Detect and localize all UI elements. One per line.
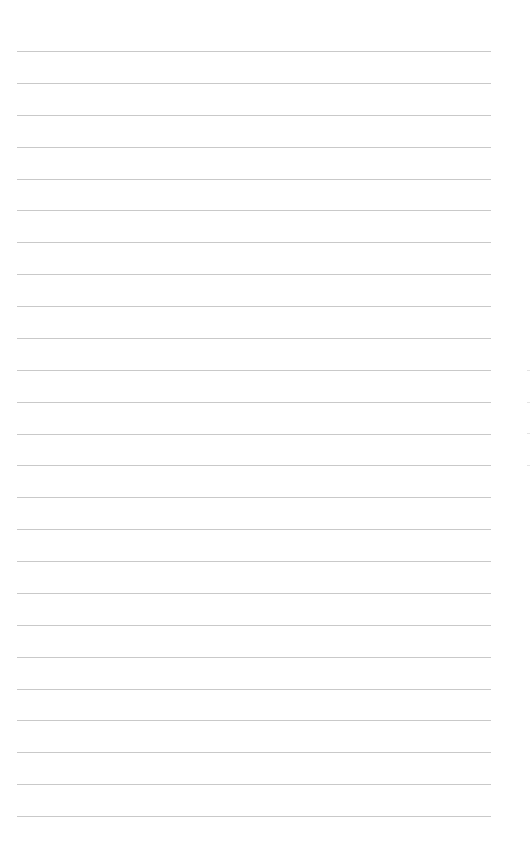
- ruled-line: [17, 179, 491, 180]
- ruled-line: [17, 370, 491, 371]
- ruled-line: [17, 402, 491, 403]
- edge-mark: [527, 465, 530, 466]
- edge-mark: [527, 402, 530, 403]
- ruled-line: [17, 147, 491, 148]
- ruled-line: [17, 561, 491, 562]
- ruled-line: [17, 338, 491, 339]
- edge-mark: [527, 370, 530, 371]
- ruled-line: [17, 752, 491, 753]
- lined-paper-page: [0, 0, 531, 854]
- ruled-line: [17, 816, 491, 817]
- ruled-line: [17, 657, 491, 658]
- ruled-line: [17, 274, 491, 275]
- ruled-line: [17, 83, 491, 84]
- ruled-line: [17, 434, 491, 435]
- ruled-line: [17, 51, 491, 52]
- ruled-line: [17, 720, 491, 721]
- ruled-line: [17, 115, 491, 116]
- ruled-line: [17, 465, 491, 466]
- ruled-line: [17, 497, 491, 498]
- ruled-line: [17, 529, 491, 530]
- edge-mark: [527, 433, 530, 434]
- ruled-line: [17, 242, 491, 243]
- ruled-line: [17, 210, 491, 211]
- ruled-line: [17, 593, 491, 594]
- ruled-line: [17, 306, 491, 307]
- ruled-line: [17, 689, 491, 690]
- ruled-line: [17, 784, 491, 785]
- ruled-line: [17, 625, 491, 626]
